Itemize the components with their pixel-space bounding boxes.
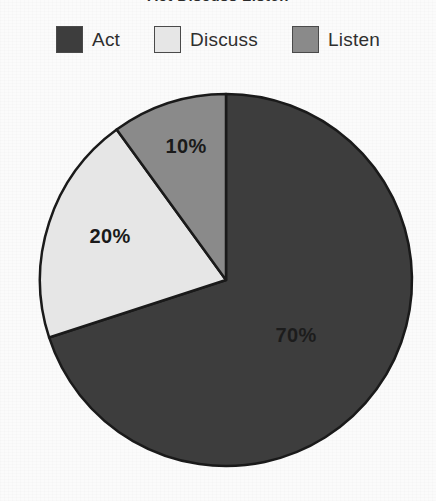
chart-page: Act Discuss Listen Act Discuss Listen 70… — [0, 0, 436, 501]
pie-chart: 70%20%10% — [0, 0, 436, 501]
pie-chart-svg: 70%20%10% — [0, 0, 436, 501]
pie-slice-label-listen: 10% — [166, 135, 207, 157]
pie-slice-group — [40, 94, 412, 466]
pie-slice-label-act: 70% — [276, 324, 317, 346]
pie-slice-label-discuss: 20% — [90, 225, 131, 247]
